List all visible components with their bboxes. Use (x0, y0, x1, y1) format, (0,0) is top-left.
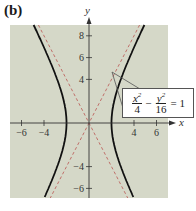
denominator-4: 4 (133, 104, 141, 114)
x-tick-label: 6 (154, 127, 159, 138)
x-tick-label: −6 (16, 127, 27, 138)
x-axis-arrow-icon (169, 121, 176, 126)
y-axis-label: y (84, 4, 90, 16)
y-axis-arrow-icon (87, 17, 92, 24)
denominator-16: 16 (155, 104, 168, 114)
y-tick-label: −6 (73, 183, 84, 194)
y-tick-label: −4 (73, 161, 84, 172)
fraction-y: y2 16 (155, 93, 168, 114)
y-tick-label: 8 (79, 30, 84, 41)
exponent: 2 (138, 91, 142, 99)
y-tick-label: 6 (79, 52, 84, 63)
exponent: 2 (162, 91, 166, 99)
x-tick-label: −4 (39, 127, 50, 138)
equals-one: = 1 (171, 97, 185, 109)
fraction-x: x2 4 (132, 93, 142, 114)
equation-callout: x2 4 − y2 16 = 1 (122, 88, 194, 118)
x-tick-label: 4 (132, 127, 137, 138)
y-tick-label: 4 (79, 74, 84, 85)
minus-sign: − (145, 97, 151, 109)
